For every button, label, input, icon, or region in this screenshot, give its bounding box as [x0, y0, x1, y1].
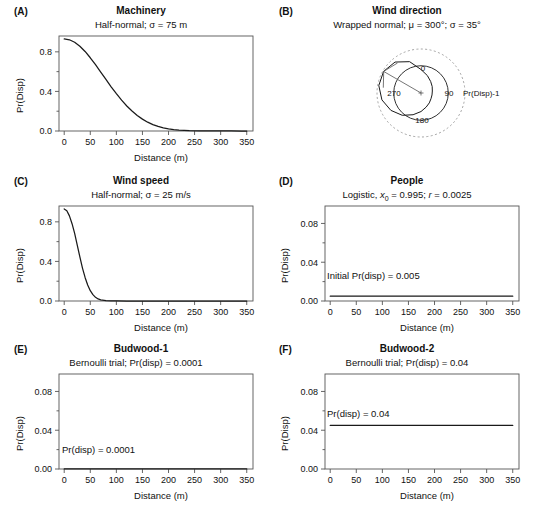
x-tick-label: 200 [161, 137, 176, 147]
y-tick-label: 0.4 [39, 87, 52, 97]
y-tick-label: 0.0 [39, 126, 52, 136]
figure-dispersal-kernels: (A) Machinery Half-normal; σ = 75 m Pr(D… [0, 0, 542, 506]
x-tick-label: 250 [453, 475, 468, 485]
x-tick-label: 300 [213, 475, 228, 485]
direction-label-0: 0 [421, 64, 426, 73]
x-tick-label: 150 [135, 475, 150, 485]
y-tick-label: 0.04 [300, 258, 318, 268]
radial-axis-label: Pr(Disp)-1 [463, 89, 500, 98]
x-tick-label: 50 [85, 137, 95, 147]
panel-e: (E) Budwood-1 Bernoulli trial; Pr(disp) … [0, 338, 271, 506]
x-tick-label: 100 [109, 307, 124, 317]
x-tick-label: 100 [375, 475, 390, 485]
plot-box [325, 374, 519, 469]
panel-d: (D) People Logistic, x0 = 0.995; r = 0.0… [271, 170, 542, 338]
panel-a-plot: 0501001502002503003500.00.40.8 [0, 0, 271, 170]
y-tick-label: 0.00 [300, 296, 318, 306]
x-tick-label: 0 [62, 475, 67, 485]
x-tick-label: 250 [187, 475, 202, 485]
x-tick-label: 300 [479, 307, 494, 317]
x-tick-label: 350 [239, 137, 254, 147]
x-tick-label: 200 [161, 307, 176, 317]
x-tick-label: 100 [375, 307, 390, 317]
y-tick-label: 0.04 [300, 426, 318, 436]
x-tick-label: 50 [351, 307, 361, 317]
x-tick-label: 50 [85, 307, 95, 317]
y-tick-label: 0.8 [39, 217, 52, 227]
y-tick-label: 0.00 [34, 464, 52, 474]
x-tick-label: 100 [109, 475, 124, 485]
x-tick-label: 250 [187, 307, 202, 317]
x-tick-label: 350 [505, 475, 520, 485]
x-tick-label: 300 [213, 137, 228, 147]
x-tick-label: 250 [187, 137, 202, 147]
y-tick-label: 0.04 [34, 426, 52, 436]
panel-f: (F) Budwood-2 Bernoulli trial; Pr(disp) … [271, 338, 542, 506]
direction-label-90: 90 [445, 89, 454, 98]
x-tick-label: 200 [161, 475, 176, 485]
panel-c-plot: 0501001502002503003500.00.40.8 [0, 170, 271, 338]
plot-box [59, 374, 253, 469]
x-tick-label: 50 [85, 475, 95, 485]
x-tick-label: 300 [213, 307, 228, 317]
panel-e-plot: 0501001502002503003500.000.040.08 [0, 338, 271, 506]
x-tick-label: 200 [427, 307, 442, 317]
x-tick-label: 0 [328, 475, 333, 485]
direction-label-180: 180 [415, 116, 429, 125]
y-tick-label: 0.08 [300, 219, 318, 229]
x-tick-label: 0 [62, 137, 67, 147]
panel-f-plot: 0501001502002503003500.000.040.08 [271, 338, 542, 506]
x-tick-label: 0 [328, 307, 333, 317]
x-tick-label: 100 [109, 137, 124, 147]
x-tick-label: 150 [135, 307, 150, 317]
y-tick-label: 0.00 [300, 464, 318, 474]
y-tick-label: 0.8 [39, 47, 52, 57]
data-curve [64, 39, 247, 131]
y-tick-label: 0.4 [39, 257, 52, 267]
panel-b-polar-plot: 090180270Pr(Disp)-1 [271, 0, 542, 170]
y-tick-label: 0.0 [39, 296, 52, 306]
x-tick-label: 150 [135, 137, 150, 147]
panel-a: (A) Machinery Half-normal; σ = 75 m Pr(D… [0, 0, 271, 170]
panel-d-plot: 0501001502002503003500.000.040.08 [271, 170, 542, 338]
x-tick-label: 200 [427, 475, 442, 485]
x-tick-label: 350 [239, 475, 254, 485]
x-tick-label: 300 [479, 475, 494, 485]
x-tick-label: 0 [62, 307, 67, 317]
x-tick-label: 250 [453, 307, 468, 317]
plot-box [325, 206, 519, 301]
x-tick-label: 150 [401, 475, 416, 485]
x-tick-label: 50 [351, 475, 361, 485]
direction-label-270: 270 [387, 89, 401, 98]
panel-b: (B) Wind direction Wrapped normal; μ = 3… [271, 0, 542, 170]
x-tick-label: 350 [505, 307, 520, 317]
x-tick-label: 150 [401, 307, 416, 317]
plot-box [59, 36, 253, 131]
x-tick-label: 350 [239, 307, 254, 317]
data-curve [64, 209, 247, 301]
y-tick-label: 0.08 [34, 387, 52, 397]
panel-c: (C) Wind speed Half-normal; σ = 25 m/s P… [0, 170, 271, 338]
y-tick-label: 0.08 [300, 387, 318, 397]
